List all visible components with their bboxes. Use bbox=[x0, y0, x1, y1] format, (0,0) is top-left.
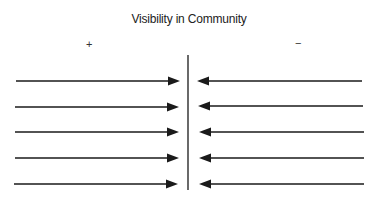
arrowhead-icon bbox=[199, 180, 211, 189]
negative-force-arrow-4 bbox=[199, 154, 364, 163]
arrowhead-icon bbox=[197, 77, 209, 86]
positive-force-arrow-4 bbox=[15, 154, 179, 163]
force-field-diagram bbox=[0, 0, 378, 199]
arrowhead-icon bbox=[166, 180, 178, 189]
positive-forces-arrows bbox=[14, 77, 180, 189]
negative-forces-arrows bbox=[197, 77, 364, 189]
positive-force-arrow-1 bbox=[16, 77, 180, 86]
arrowhead-icon bbox=[199, 128, 211, 137]
arrowhead-icon bbox=[168, 77, 180, 86]
arrowhead-icon bbox=[167, 128, 179, 137]
positive-force-arrow-2 bbox=[15, 103, 179, 112]
negative-force-arrow-1 bbox=[197, 77, 362, 86]
positive-force-arrow-5 bbox=[14, 180, 178, 189]
arrowhead-icon bbox=[167, 154, 179, 163]
negative-force-arrow-3 bbox=[199, 128, 364, 137]
positive-force-arrow-3 bbox=[15, 128, 179, 137]
arrowhead-icon bbox=[199, 154, 211, 163]
arrowhead-icon bbox=[198, 102, 210, 111]
negative-force-arrow-5 bbox=[199, 180, 364, 189]
arrowhead-icon bbox=[167, 103, 179, 112]
negative-force-arrow-2 bbox=[198, 102, 363, 111]
